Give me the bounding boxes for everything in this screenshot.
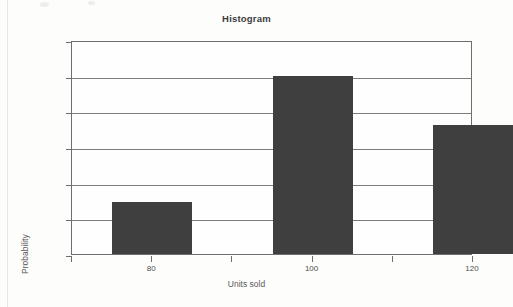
x-tick-label: 120 <box>450 264 494 273</box>
x-tick-mark <box>392 256 393 262</box>
scan-artifact-speck <box>40 2 49 7</box>
y-tick-mark <box>66 185 72 186</box>
x-axis: 80100120 <box>71 256 472 296</box>
scan-artifact-speck <box>88 1 95 5</box>
y-tick-mark <box>66 113 72 114</box>
bar-80 <box>112 202 192 254</box>
bars-layer <box>72 42 471 254</box>
x-tick-mark <box>312 256 313 262</box>
bar-100 <box>273 76 353 254</box>
y-tick-mark <box>66 78 72 79</box>
x-tick-mark <box>472 256 473 262</box>
x-tick-mark <box>151 256 152 262</box>
bar-120 <box>433 125 513 254</box>
y-tick-mark <box>66 220 72 221</box>
chart-title: Histogram <box>0 13 493 24</box>
y-axis-label: Probability <box>20 234 30 274</box>
x-tick-label: 100 <box>290 264 334 273</box>
x-tick-label: 80 <box>129 264 173 273</box>
x-tick-mark <box>71 256 72 262</box>
plot-area <box>71 41 472 255</box>
y-tick-mark <box>66 42 72 43</box>
scan-artifact-edge <box>7 0 8 307</box>
x-tick-mark <box>231 256 232 262</box>
x-axis-label: Units sold <box>0 279 493 289</box>
y-tick-mark <box>66 149 72 150</box>
